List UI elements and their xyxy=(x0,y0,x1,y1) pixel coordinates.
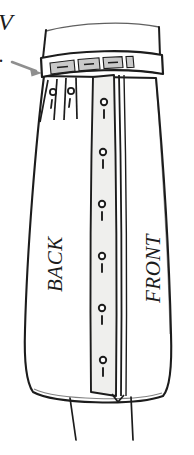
cropped-caption-dot: . xyxy=(0,44,4,66)
skirt-technical-sketch: V . xyxy=(0,0,194,455)
leg-line-right xyxy=(131,397,133,440)
rise-top-line xyxy=(46,23,159,31)
segment-dash xyxy=(57,67,68,68)
cropped-caption-group: V . xyxy=(0,9,15,66)
waistband xyxy=(41,23,163,77)
dart-line xyxy=(76,78,77,120)
segment-dash xyxy=(84,64,94,65)
label-back-panel: BACK xyxy=(43,236,67,292)
rise-edge-right xyxy=(159,27,160,56)
waistband-callout-arrow xyxy=(12,62,42,77)
figure-canvas: V . xyxy=(0,0,194,455)
rise-edge-left xyxy=(43,30,46,58)
waistband-segment xyxy=(126,56,134,67)
cropped-caption-glyph: V xyxy=(0,9,15,35)
placket-panel xyxy=(91,75,117,396)
label-front-panel: FRONT xyxy=(141,233,165,304)
segment-dash xyxy=(108,62,118,63)
leg-line-left xyxy=(70,398,76,440)
